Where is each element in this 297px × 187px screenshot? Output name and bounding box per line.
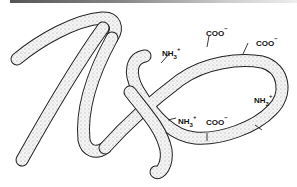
nh3-label-upper: NH3+: [162, 47, 180, 59]
nh3-label-right: NH3+: [254, 94, 272, 106]
coo-label-bottom: COO−: [206, 116, 228, 127]
protein-chain-diagram: [0, 0, 297, 187]
nh3-label-bottom: NH3+: [178, 115, 196, 127]
coo-label-top: COO−: [206, 27, 228, 38]
coo-label-top-right: COO−: [256, 37, 278, 48]
